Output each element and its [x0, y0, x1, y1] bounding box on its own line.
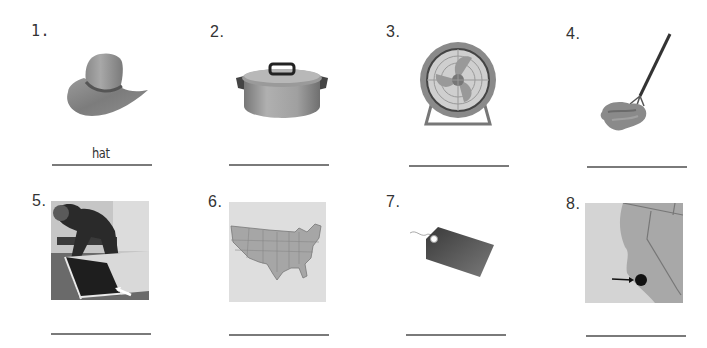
item-number: 4.: [566, 25, 580, 43]
cowboy-hat-icon: [60, 48, 155, 120]
electric-fan-icon: [418, 40, 498, 128]
mop-icon: [596, 32, 676, 136]
item-number: 2.: [210, 23, 224, 41]
map-box: [585, 203, 683, 303]
item-number: 3.: [386, 23, 400, 41]
item-number: 7.: [386, 193, 400, 211]
answer-line[interactable]: [229, 164, 329, 166]
answer-line[interactable]: [587, 166, 687, 168]
price-tag-icon: [410, 227, 495, 279]
cooking-pot-icon: [234, 56, 330, 118]
us-map-icon: [229, 202, 326, 302]
answer-line[interactable]: [406, 334, 506, 336]
photo-man-making-bed: [51, 201, 149, 300]
california-map-icon: [585, 203, 683, 303]
answer-line[interactable]: [51, 333, 151, 335]
answer-line[interactable]: [52, 164, 152, 166]
item-number: 5.: [32, 192, 46, 210]
item-number: 1.: [31, 22, 50, 40]
item-number: 6.: [208, 193, 222, 211]
answer-line[interactable]: [229, 334, 329, 336]
answer-line[interactable]: [586, 335, 686, 337]
map-box: [229, 202, 326, 302]
bed-making-photo-icon: [51, 201, 149, 300]
answer-text: hat: [92, 145, 110, 161]
item-number: 8.: [566, 195, 580, 213]
answer-line[interactable]: [409, 165, 509, 167]
